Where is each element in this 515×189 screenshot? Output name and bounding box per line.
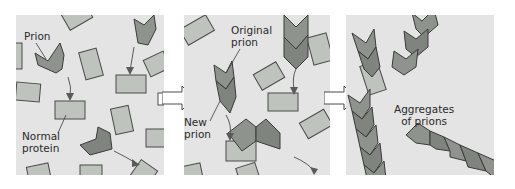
new-prion-label-line1: New [184,116,211,128]
new-prion-label-line2: prion [184,128,211,140]
normal-protein-shape [55,101,85,119]
panel-normal-proteins-and-prion: Prion Normal protein [16,15,164,175]
normal-protein-shape [299,109,330,139]
panel-prion-conversion: Original prion New prion [184,15,330,175]
new-prion-label: New prion [184,116,211,140]
normal-protein-shape [253,62,285,91]
normal-protein-label: Normal protein [22,130,60,154]
prion-label: Prion [24,30,50,42]
normal-protein-shape [16,43,22,69]
original-prion-label: Original prion [231,24,272,48]
normal-protein-shape [307,33,330,65]
conversion-arrow [293,69,296,89]
arrowhead-icon [66,93,74,101]
prion-aggregate-shape [392,49,418,75]
normal-protein-shape [116,75,146,93]
normal-protein-shape [146,129,164,147]
aggregates-label-line2: of prions [394,115,454,127]
panel-3-illustration [346,15,494,175]
prion-shape [256,119,280,149]
normal-protein-label-line1: Normal [22,130,60,142]
normal-protein-shape [26,163,51,175]
arrowhead-icon [310,167,318,175]
normal-protein-shape [79,48,104,80]
normal-protein-shape [80,165,102,175]
normal-protein-label-line2: protein [22,142,60,154]
normal-protein-shape [143,51,164,77]
leader-line [210,101,220,121]
normal-protein-shape [16,82,41,102]
panel-prion-aggregates: Aggregates of prions [346,15,494,175]
arrowhead-icon [126,67,134,75]
normal-protein-shape [61,15,93,30]
original-prion-label-line2: prion [231,36,272,48]
normal-protein-shape [184,15,214,45]
prion-shape [80,127,112,155]
normal-protein-shape [236,162,261,175]
prion-shape [134,15,156,45]
aggregates-label-line1: Aggregates [394,103,454,115]
normal-protein-shape [268,93,298,111]
aggregates-of-prions-label: Aggregates of prions [394,103,454,127]
original-prion-label-line1: Original [231,24,272,36]
prion-shape [35,43,64,73]
normal-protein-shape [184,163,204,175]
normal-protein-shape [126,160,157,175]
normal-protein-shape [110,105,133,134]
